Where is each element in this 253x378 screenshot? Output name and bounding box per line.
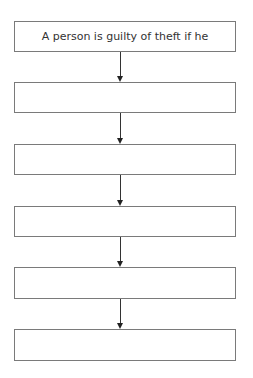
flowchart-box-2[interactable] <box>14 82 236 113</box>
connector-line <box>120 237 121 261</box>
connector-line <box>120 52 121 76</box>
flowchart-box-6[interactable] <box>14 329 236 361</box>
connector-line <box>120 113 121 138</box>
connector-line <box>120 299 121 323</box>
flowchart-box-1: A person is guilty of theft if he <box>14 21 236 52</box>
connector-line <box>120 175 121 200</box>
flowchart-box-5[interactable] <box>14 267 236 299</box>
flowchart-box-3[interactable] <box>14 144 236 175</box>
box-label: A person is guilty of theft if he <box>42 30 209 43</box>
flowchart-box-4[interactable] <box>14 206 236 237</box>
